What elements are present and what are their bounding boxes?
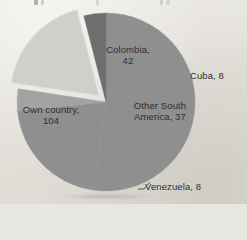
scan-smudge [58,193,154,200]
pie-label-colombia-line2: 42 [92,55,164,66]
pie-label-own-country-line2: 104 [14,115,88,126]
pie-label-venezuela: Venezuela, 8 [145,181,243,192]
pie-label-other-south-america-line2: America, 37 [121,111,199,122]
pie-label-colombia: Colombia, 42 [92,44,164,66]
pie-label-other-south-america: Other South America, 37 [121,100,199,122]
pie-label-colombia-line1: Colombia, [92,44,164,55]
pie-label-own-country: Own country, 104 [14,104,88,126]
pie-label-own-country-line1: Own country, [14,104,88,115]
pie-label-cuba: Cuba, 8 [190,70,246,81]
pie-label-other-south-america-line1: Other South [121,100,199,111]
